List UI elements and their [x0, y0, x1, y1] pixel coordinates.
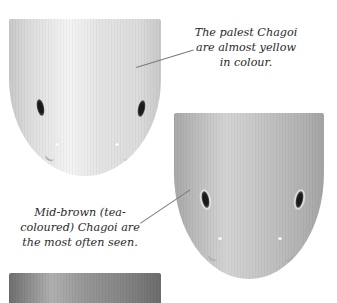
fish-body: [9, 19, 161, 176]
right-nostril-icon: [278, 237, 282, 240]
caption-mid-brown-chagoi: Mid-brown (tea- coloured) Chagoi are the…: [20, 205, 140, 250]
fish-body: [9, 273, 161, 303]
mid-brown-chagoi-illustration: [174, 113, 324, 279]
right-nostril-icon: [115, 143, 119, 146]
left-nostril-icon: [218, 237, 222, 240]
caption-line: in colour.: [192, 55, 300, 70]
caption-line: the most often seen.: [20, 235, 140, 250]
caption-line: Mid-brown (tea-: [20, 205, 140, 220]
caption-pale-chagoi: The palest Chagoi are almost yellow in c…: [192, 25, 300, 70]
caption-line: coloured) Chagoi are: [20, 220, 140, 235]
left-nostril-icon: [55, 143, 59, 146]
caption-line: The palest Chagoi: [192, 25, 300, 40]
dark-chagoi-illustration: [9, 273, 161, 303]
pale-chagoi-illustration: [9, 19, 161, 176]
caption-line: are almost yellow: [192, 40, 300, 55]
